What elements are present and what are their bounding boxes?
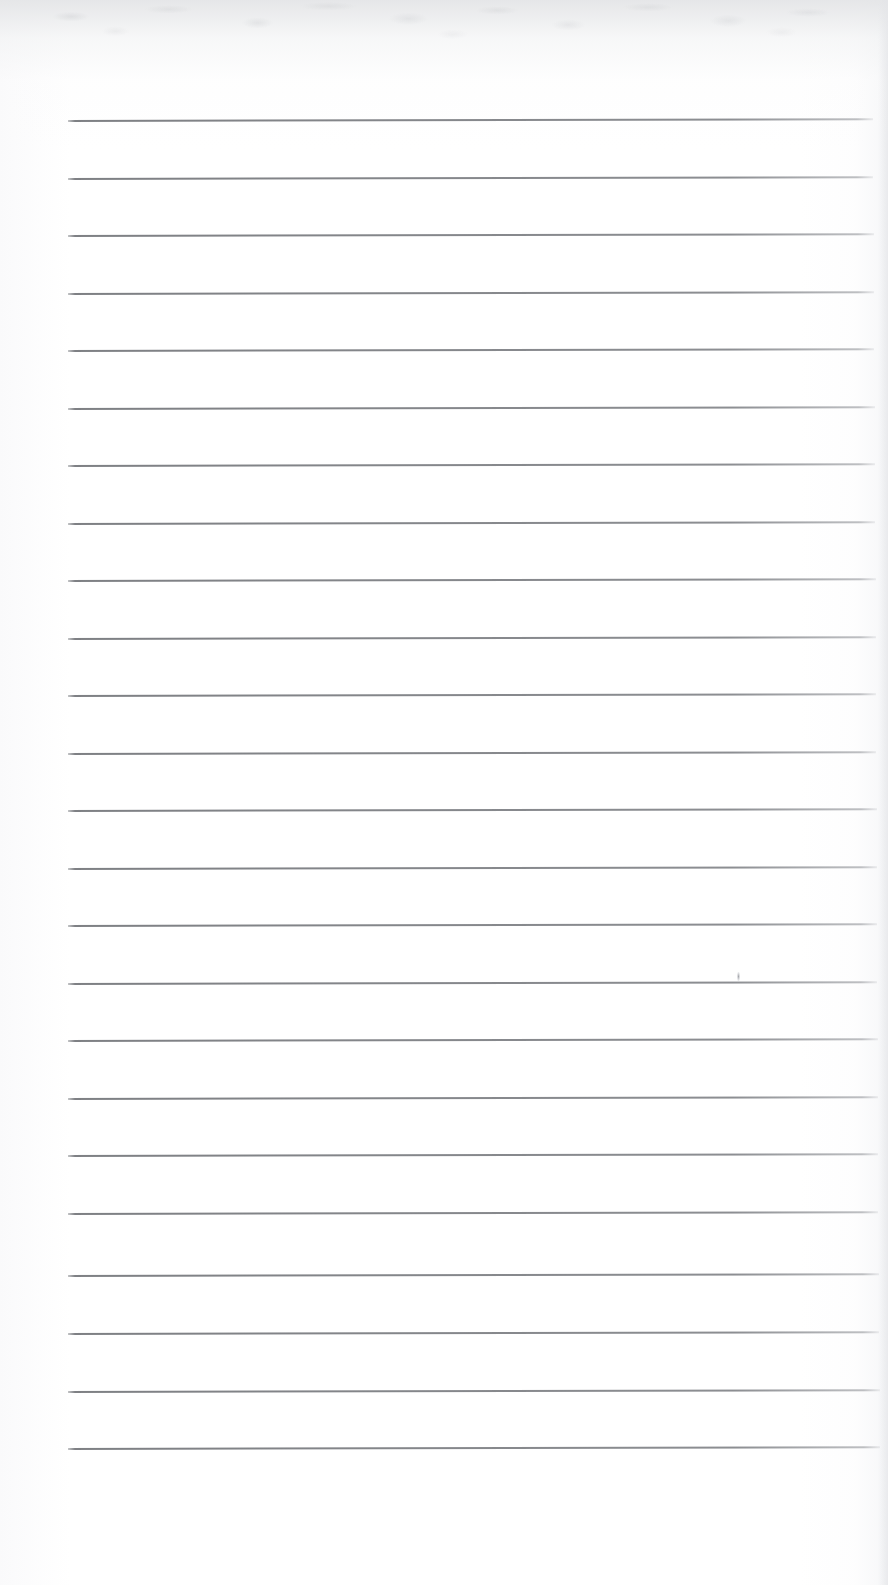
ruled-line [68,176,873,179]
ruled-line [68,1446,880,1449]
ruled-line [68,636,876,639]
ruled-line [68,751,876,754]
scanned-page [0,0,888,1585]
ruled-line [68,981,877,984]
ruled-line [68,866,877,869]
ruled-line [68,1153,878,1156]
ruled-lines-group [0,0,888,1585]
ruled-line [68,1273,879,1276]
ruled-line [68,233,874,236]
ruled-line [68,923,877,926]
ruled-line [68,1038,878,1041]
ruled-line [68,118,873,121]
ruled-line [68,1331,879,1334]
ruled-line [68,693,876,696]
ruled-line [68,1211,878,1214]
ruled-line [68,808,877,811]
ruled-line [68,578,876,581]
scan-speck [737,972,740,981]
ruled-line [68,291,874,294]
ruled-line [68,1096,878,1099]
ruled-line [68,406,875,409]
ruled-line [68,521,875,524]
ruled-line [68,1389,880,1392]
ruled-line [68,463,875,466]
ruled-line [68,348,874,351]
